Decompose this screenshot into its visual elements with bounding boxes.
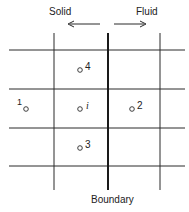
node-i-marker [78, 107, 83, 112]
grid-diagram [0, 0, 189, 212]
node-1-marker [24, 107, 29, 112]
node-3-label: 3 [85, 140, 91, 150]
node-2-marker [130, 107, 135, 112]
node-3-marker [78, 146, 83, 151]
node-4-label: 4 [85, 62, 91, 72]
fluid-label: Fluid [136, 7, 158, 17]
fluid-arrow-icon [114, 21, 146, 27]
node-1-label: 1 [17, 98, 22, 107]
solid-arrow-icon [68, 21, 100, 27]
node-2-label: 2 [137, 101, 143, 111]
node-i-label: i [86, 101, 89, 111]
boundary-label: Boundary [91, 195, 134, 205]
node-4-marker [78, 68, 83, 73]
solid-label: Solid [49, 7, 71, 17]
